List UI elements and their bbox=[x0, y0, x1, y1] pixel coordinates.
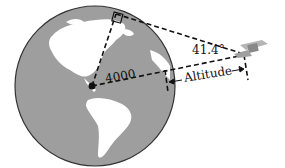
earth-satellite-diagram: 4000 41.4° Altitude bbox=[0, 0, 285, 168]
earth-center-point bbox=[89, 83, 96, 90]
diagram-graphic bbox=[0, 0, 285, 168]
angle-label: 41.4° bbox=[192, 43, 225, 57]
satellite-icon bbox=[234, 40, 268, 58]
